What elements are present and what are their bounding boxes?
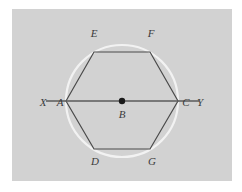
label-b: B: [119, 108, 126, 120]
label-g: G: [148, 155, 156, 167]
label-a: A: [56, 96, 64, 108]
label-x: X: [39, 96, 48, 108]
label-y: Y: [197, 96, 205, 108]
label-f: F: [147, 27, 155, 39]
screenshot-root: X A B C Y E F D G: [0, 0, 242, 192]
label-c: C: [182, 96, 190, 108]
label-e: E: [90, 27, 98, 39]
label-d: D: [90, 155, 99, 167]
geometry-figure: X A B C Y E F D G: [0, 0, 242, 192]
center-point-dot: [119, 98, 125, 104]
